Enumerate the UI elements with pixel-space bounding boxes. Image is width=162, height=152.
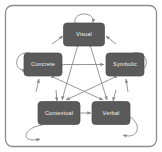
diagram-svg: Visual Concrete Symbolic Contextual Verb…: [0, 0, 162, 152]
diagram-canvas: Visual Concrete Symbolic Contextual Verb…: [0, 0, 162, 152]
node-visual-label: Visual: [76, 31, 92, 37]
node-verbal-label: Verbal: [103, 110, 120, 116]
node-concrete-label: Concrete: [31, 61, 55, 67]
node-symbolic[interactable]: Symbolic: [106, 53, 144, 76]
node-contextual-label: Contextual: [45, 110, 73, 116]
node-verbal[interactable]: Verbal: [92, 102, 130, 125]
node-symbolic-label: Symbolic: [113, 61, 137, 67]
node-contextual[interactable]: Contextual: [38, 102, 80, 125]
node-concrete[interactable]: Concrete: [24, 53, 62, 76]
node-visual[interactable]: Visual: [64, 23, 105, 46]
